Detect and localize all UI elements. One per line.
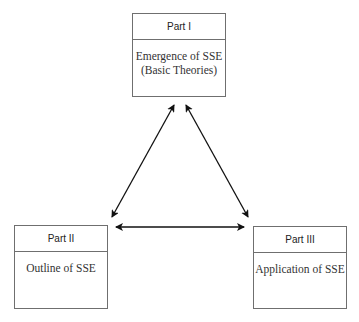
part-2-body: Outline of SSE [15,252,107,275]
part-1-line-1: Emergence of SSE [133,49,225,63]
part-1-line-2: (Basic Theories) [133,63,225,77]
part-3-body: Application of SSE [254,253,346,276]
part-1-box: Part I Emergence of SSE (Basic Theories) [132,13,226,97]
part-1-header: Part I [133,14,225,40]
part-3-box: Part III Application of SSE [253,226,347,309]
part-2-box: Part II Outline of SSE [14,225,108,309]
part-3-header: Part III [254,227,346,253]
part-3-line-1: Application of SSE [254,262,346,276]
part-2-line-1: Outline of SSE [15,261,107,275]
arrow-part1-part3 [186,105,248,217]
arrow-part1-part2 [112,105,174,217]
part-1-body: Emergence of SSE (Basic Theories) [133,40,225,77]
part-2-header: Part II [15,226,107,252]
